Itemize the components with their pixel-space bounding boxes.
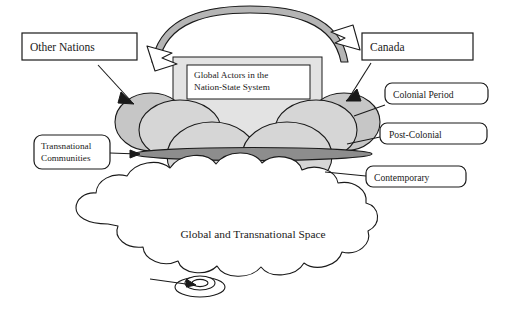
callout-post-colonial-label: Post-Colonial (389, 129, 442, 140)
concentric-ellipse-node-icon (150, 276, 225, 297)
box-canada[interactable]: Canada (362, 33, 473, 60)
callout-transnational-communities[interactable]: Transnational Communities (34, 135, 110, 169)
callout-contemporary-label: Contemporary (374, 172, 430, 183)
diagram-svg: Global Actors in the Nation-State System… (0, 0, 509, 310)
diagram-canvas: Global Actors in the Nation-State System… (0, 0, 509, 310)
inner-label-box: Global Actors in the Nation-State System (187, 65, 310, 99)
inner-box-line-2: Nation-State System (194, 82, 270, 92)
cloud-label: Global and Transnational Space (180, 228, 325, 240)
box-other-nations-label: Other Nations (30, 41, 95, 53)
callout-contemporary[interactable]: Contemporary (366, 166, 466, 187)
callout-post-colonial[interactable]: Post-Colonial (380, 123, 487, 144)
callout-transnational-line-1: Transnational (41, 141, 92, 151)
leader-canada (349, 63, 371, 98)
box-canada-label: Canada (370, 41, 404, 53)
callout-colonial-period[interactable]: Colonial Period (385, 83, 488, 104)
leader-other-nations (98, 65, 131, 101)
cloud-icon: Global and Transnational Space (76, 153, 378, 276)
callout-colonial-period-label: Colonial Period (393, 89, 454, 100)
inner-box-line-1: Global Actors in the (194, 70, 268, 80)
callout-transnational-line-2: Communities (41, 153, 91, 163)
box-other-nations[interactable]: Other Nations (22, 33, 137, 60)
